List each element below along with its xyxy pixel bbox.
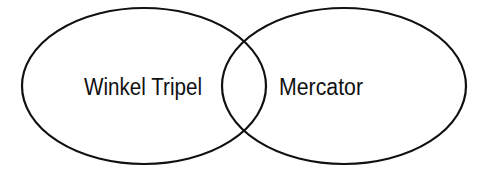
venn-diagram: Winkel Tripel Mercator [0, 0, 477, 170]
set-label-mercator: Mercator [279, 74, 363, 100]
set-label-winkel-tripel: Winkel Tripel [84, 74, 202, 100]
